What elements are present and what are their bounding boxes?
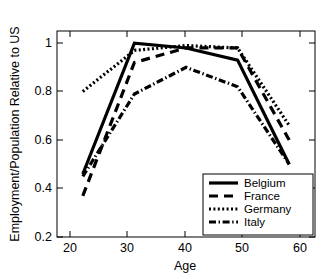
x-tick-label-3: 50 xyxy=(235,241,249,255)
x-tick-label-1: 30 xyxy=(120,241,134,255)
y-tick-label-3: 0.8 xyxy=(35,84,52,98)
y-tick-label-1: 0.4 xyxy=(35,181,52,195)
x-tick-label-2: 40 xyxy=(178,241,192,255)
legend-label-france: France xyxy=(244,190,280,202)
y-tick-label-0: 0.2 xyxy=(35,230,52,244)
legend-label-italy: Italy xyxy=(244,216,265,228)
y-tick-label-2: 0.6 xyxy=(35,133,52,147)
y-tick-label-4: 1 xyxy=(45,36,52,50)
line-chart: 0.2 0.4 0.6 0.8 1 20 30 40 50 60 Age Emp… xyxy=(0,0,333,279)
legend-label-belgium: Belgium xyxy=(244,177,286,189)
chart-figure: 0.2 0.4 0.6 0.8 1 20 30 40 50 60 Age Emp… xyxy=(0,0,333,279)
legend-label-germany: Germany xyxy=(244,203,292,215)
x-tick-label-0: 20 xyxy=(63,241,77,255)
x-tick-label-4: 60 xyxy=(293,241,307,255)
y-axis-label: Employment/Population Relative to US xyxy=(8,26,22,241)
x-axis-label: Age xyxy=(174,259,196,273)
legend: Belgium France Germany Italy xyxy=(203,174,313,235)
